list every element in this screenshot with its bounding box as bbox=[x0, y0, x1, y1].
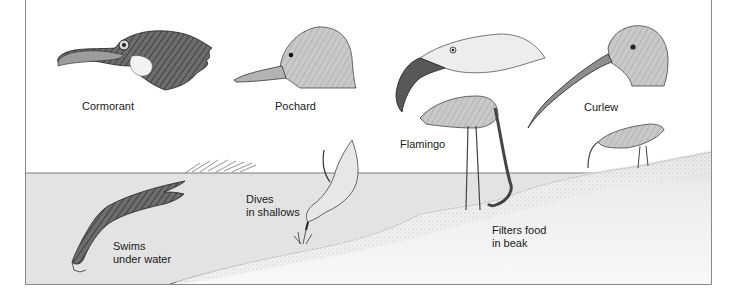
caption-line-1: Dives bbox=[246, 193, 300, 206]
feeding-curlew-illustration bbox=[588, 124, 664, 168]
caption-line-2: under water bbox=[113, 253, 171, 266]
pochard-head-illustration bbox=[234, 27, 356, 88]
label-curlew: Curlew bbox=[584, 101, 618, 114]
splash-marks bbox=[185, 160, 256, 173]
label-pochard: Pochard bbox=[275, 100, 316, 113]
bird-feeding-illustration bbox=[0, 0, 738, 292]
caption-swims-under-water: Swims under water bbox=[113, 240, 171, 266]
cormorant-head-illustration bbox=[58, 31, 212, 90]
label-cormorant: Cormorant bbox=[82, 100, 134, 113]
caption-filters-food-in-beak: Filters food in beak bbox=[492, 224, 546, 250]
caption-line-1: Filters food bbox=[492, 224, 546, 237]
label-flamingo: Flamingo bbox=[400, 138, 445, 151]
caption-dives-in-shallows: Dives in shallows bbox=[246, 193, 300, 219]
caption-line-1: Swims bbox=[113, 240, 171, 253]
caption-line-2: in beak bbox=[492, 237, 546, 250]
caption-line-2: in shallows bbox=[246, 206, 300, 219]
